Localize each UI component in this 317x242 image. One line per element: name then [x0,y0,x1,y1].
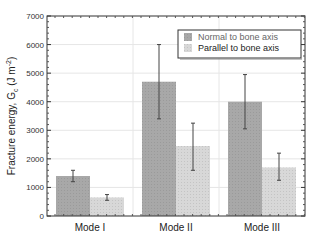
legend-swatch [184,33,192,41]
y-tick-label: 2000 [26,155,44,164]
y-tick-label: 3000 [26,126,44,135]
y-tick-label: 0 [40,212,45,221]
y-tick-label: 6000 [26,41,44,50]
x-tick-label: Mode I [75,222,106,233]
legend: Normal to bone axisParallel to bone axis [178,30,302,59]
x-tick-label: Mode III [244,222,280,233]
y-tick-label: 5000 [26,69,44,78]
bar-chart: Mode IMode IIMode III0100020003000400050… [0,0,317,242]
y-tick-label: 4000 [26,98,44,107]
y-tick-label: 7000 [26,12,44,21]
legend-label: Parallel to bone axis [198,43,280,53]
y-tick-label: 1000 [26,183,44,192]
x-tick-label: Mode II [159,222,192,233]
legend-label: Normal to bone axis [198,32,279,42]
y-axis-label: Fracture energy, Gc (J m-2) [5,57,19,175]
legend-swatch [184,44,192,52]
